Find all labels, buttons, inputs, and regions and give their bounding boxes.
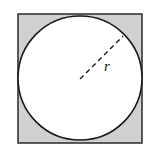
radius-label: r <box>104 58 110 74</box>
inscribed-circle <box>18 16 142 140</box>
inscribed-circle-diagram: r <box>0 0 144 153</box>
